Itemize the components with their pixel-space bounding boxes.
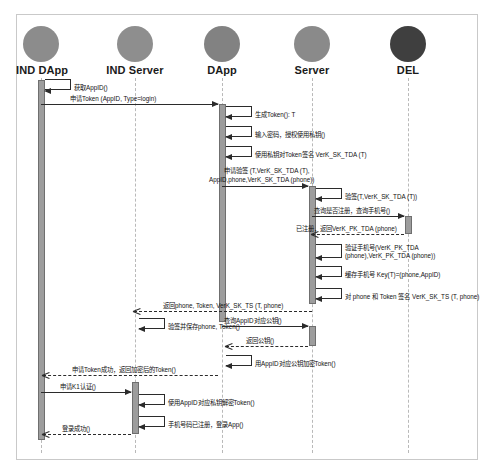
message-label-m08: 查询是否注册，查询手机号() — [314, 207, 390, 215]
activation-server-main — [309, 186, 316, 304]
message-label-m13: 返回phone, Token, VerK_SK_TS (T, phone) — [163, 302, 283, 310]
message-label-m17: 用AppID对应公钥加密Token() — [255, 360, 336, 368]
message-label-m06-line2: AppID,phone,VerK_SK_TDA (phone)) — [209, 176, 314, 184]
participant-avatar — [294, 26, 330, 62]
self-message-m07-loop — [316, 188, 342, 199]
message-label-m15: 查询AppID对应公钥() — [224, 317, 282, 325]
self-message-m04-loop — [226, 126, 252, 137]
message-label-m22: 登录成功() — [62, 425, 90, 433]
self-message-m14-loop — [139, 318, 165, 329]
message-label-m02: 申请Token (AppID, Type=login) — [70, 95, 156, 103]
message-label-m07: 验签(T,VerK_SK_TDA (T)) — [345, 193, 417, 201]
self-message-m17-loop — [226, 355, 252, 366]
participant-label: IND Server — [100, 64, 170, 76]
message-label-m19: 申请K1认证() — [60, 383, 96, 391]
self-message-m03-loop — [226, 106, 252, 117]
self-message-m20-loop — [139, 394, 165, 405]
message-label-m10-line1: 验证手机号(VerK_PK_TDA — [345, 244, 419, 252]
self-message-m05-loop — [226, 146, 252, 157]
participant-server: Server — [282, 26, 342, 76]
participant-label: IND DApp — [16, 64, 66, 76]
participant-avatar — [23, 26, 59, 62]
activation-del — [405, 216, 412, 234]
activation-ind-dapp — [38, 80, 45, 440]
participant-label: DEL — [378, 64, 438, 76]
message-label-m03: 生成Token(): T — [255, 111, 295, 119]
message-label-m20: 使用AppID对应私钥解密Token() — [168, 399, 255, 407]
message-label-m06-line1: 申请验签 (T,VerK_SK_TDA (T), — [224, 167, 310, 175]
message-label-m12: 对 phone 和 Token 签名 VerK_SK_TS (T, phone) — [345, 293, 479, 301]
self-message-m10-loop — [316, 244, 342, 258]
message-label-m09: 已注册，返回VerK_PK_TDA (phone) — [296, 225, 397, 233]
self-message-m12-loop — [316, 288, 342, 299]
participant-avatar — [204, 26, 240, 62]
activation-server-pubkey — [309, 326, 316, 346]
message-label-m05: 使用私钥对Token签名 VerK_SK_TDA (T) — [255, 151, 367, 159]
sequence-diagram-canvas: IND DApp IND Server DApp Server DEL 获取Ap… — [0, 0, 496, 476]
self-message-m11-loop — [316, 266, 342, 277]
participant-avatar — [390, 26, 426, 62]
message-label-m04: 输入密码，授权使用私钥() — [255, 131, 325, 139]
participant-label: DApp — [192, 64, 252, 76]
message-label-m21: 手机号码已注册，登录App() — [168, 421, 243, 429]
message-label-m11: 缓存手机号 Key(T)=(phone,AppID) — [345, 271, 440, 279]
participant-ind-dapp: IND DApp — [16, 26, 66, 76]
participant-avatar — [117, 26, 153, 62]
participant-label: Server — [282, 64, 342, 76]
lifeline-del — [408, 78, 409, 453]
message-label-m18: 申请Token成功，返回加密后的Token() — [72, 366, 176, 374]
self-message-m21-loop — [139, 416, 165, 427]
participant-ind-server: IND Server — [100, 26, 170, 76]
message-label-m01: 获取AppID() — [74, 84, 108, 92]
message-label-m10-line2: (phone),VerK_PK_TDA (phone)) — [345, 252, 435, 260]
participant-dapp: DApp — [192, 26, 252, 76]
participant-del: DEL — [378, 26, 438, 76]
message-label-m16: 返回公钥() — [246, 337, 274, 345]
